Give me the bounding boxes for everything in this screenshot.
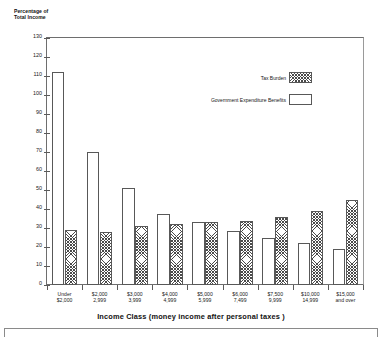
y-tick-80: 80	[22, 133, 50, 134]
y-tick-label: 130	[33, 34, 42, 39]
legend-item-government-expenditure-benefits: Government Expenditure Benefits	[176, 94, 312, 108]
x-tick-mark	[82, 285, 83, 290]
bar-government-expenditure-benefits	[122, 188, 135, 285]
bar-government-expenditure-benefits	[157, 214, 170, 285]
bar-tax-burden	[346, 200, 359, 286]
x-tick-mark	[47, 285, 48, 290]
x-axis-label: $15,000 and over	[328, 291, 363, 304]
x-axis-label: $4,000 4,999	[152, 291, 187, 304]
x-tick-mark	[117, 285, 118, 290]
y-tick-40: 40	[22, 209, 50, 210]
y-tick-label: 70	[36, 148, 42, 153]
bar-group	[328, 38, 363, 285]
y-tick-label: 80	[36, 129, 42, 134]
bar-tax-burden	[205, 222, 218, 285]
page-edge-left	[4, 328, 5, 337]
legend-label-government-expenditure-benefits: Government Expenditure Benefits	[211, 98, 286, 104]
x-axis-label: $6,000 7,499	[223, 291, 258, 304]
bar-tax-burden	[135, 226, 148, 285]
x-axis-label: $3,000 3,999	[117, 291, 152, 304]
y-tick-label: 110	[33, 72, 42, 77]
y-tick-70: 70	[22, 152, 50, 153]
x-axis-label: $5,000 5,999	[187, 291, 222, 304]
bar-group	[117, 38, 152, 285]
y-tick-label: 60	[36, 167, 42, 172]
x-tick-mark	[258, 285, 259, 290]
y-tick-10: 10	[22, 266, 50, 267]
y-tick-100: 100	[22, 95, 50, 96]
y-tick-60: 60	[22, 171, 50, 172]
y-tick-130: 130	[22, 38, 50, 39]
x-tick-mark	[223, 285, 224, 290]
y-tick-0: 0	[22, 285, 50, 286]
bar-tax-burden	[65, 230, 78, 285]
legend-swatch-government-expenditure-benefits	[289, 94, 312, 105]
y-tick-label: 10	[36, 262, 42, 267]
x-axis-label: $2,000 2,999	[82, 291, 117, 304]
y-tick-label: 40	[36, 205, 42, 210]
y-tick-30: 30	[22, 228, 50, 229]
y-tick-label: 30	[36, 224, 42, 229]
y-tick-label: 120	[33, 53, 42, 58]
bar-government-expenditure-benefits	[192, 222, 205, 285]
x-axis-label: $10,000 14,999	[293, 291, 328, 304]
y-axis-title: Percentage of Total Income	[14, 8, 48, 20]
y-tick-label: 50	[36, 186, 42, 191]
x-tick-mark	[293, 285, 294, 290]
bar-group	[82, 38, 117, 285]
y-tick-50: 50	[22, 190, 50, 191]
bar-tax-burden	[240, 221, 253, 285]
legend-item-tax-burden: Tax Burden	[176, 72, 312, 86]
bar-government-expenditure-benefits	[333, 249, 346, 285]
bar-government-expenditure-benefits	[87, 152, 100, 285]
y-tick-20: 20	[22, 247, 50, 248]
bar-government-expenditure-benefits	[298, 243, 311, 285]
bar-tax-burden	[100, 232, 113, 285]
x-tick-mark	[328, 285, 329, 290]
y-tick-120: 120	[22, 57, 50, 58]
bar-tax-burden	[275, 217, 288, 285]
page-bottom-rule	[4, 328, 378, 329]
y-tick-label: 100	[33, 91, 42, 96]
y-tick-label: 20	[36, 243, 42, 248]
x-axis-label: Under $2,000	[47, 291, 82, 304]
x-axis-title: Income Class (money income after persona…	[0, 312, 382, 321]
bar-government-expenditure-benefits	[262, 238, 275, 286]
x-tick-mark	[152, 285, 153, 290]
bar-chart-figure: Percentage of Total Income 0102030405060…	[0, 0, 382, 337]
y-tick-110: 110	[22, 76, 50, 77]
x-tick-mark	[187, 285, 188, 290]
legend-label-tax-burden: Tax Burden	[261, 76, 286, 82]
bar-government-expenditure-benefits	[52, 72, 65, 285]
chart-legend: Tax Burden Government Expenditure Benefi…	[176, 72, 312, 116]
bar-group	[47, 38, 82, 285]
page-edge-right	[377, 328, 378, 337]
x-axis-label: $7,500 9,999	[258, 291, 293, 304]
legend-swatch-tax-burden	[289, 72, 312, 83]
x-tick-mark	[363, 285, 364, 290]
bar-tax-burden	[311, 211, 324, 285]
y-tick-label: 90	[36, 110, 42, 115]
bar-tax-burden	[170, 224, 183, 285]
y-tick-label: 0	[39, 281, 42, 286]
y-tick-90: 90	[22, 114, 50, 115]
bar-government-expenditure-benefits	[227, 231, 240, 285]
